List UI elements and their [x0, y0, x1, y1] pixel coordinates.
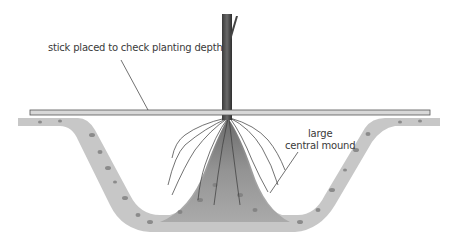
mound-label-line1: large — [285, 128, 355, 140]
mound-leader-line — [270, 152, 298, 193]
mound-label: large central mound — [285, 128, 355, 152]
measuring-stick — [30, 110, 430, 115]
stick-label: stick placed to check planting depth — [48, 42, 223, 54]
planting-diagram — [0, 0, 454, 241]
tree-trunk — [222, 14, 238, 120]
mound-label-line2: central mound — [285, 140, 355, 152]
stick-leader-line — [121, 60, 148, 110]
soil-profile — [18, 118, 440, 232]
